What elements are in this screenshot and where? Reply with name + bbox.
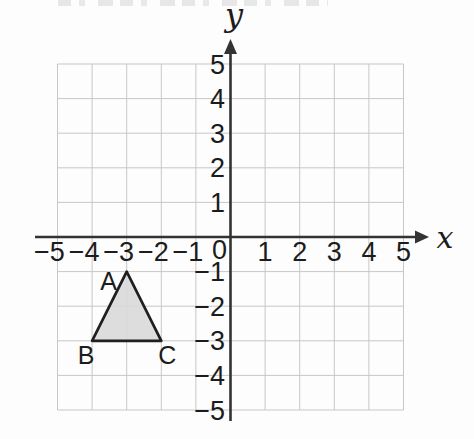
y-tick-label: 5 [210,50,225,80]
x-axis-label: x [437,220,454,255]
x-tick-label: 3 [327,237,342,267]
vertex-label-C: C [158,341,176,369]
x-tick-label: −3 [103,237,134,267]
figure: −5−4−3−2−112345−5−4−3−2−1123450yxABC [0,0,474,439]
x-tick-label: −4 [69,237,100,267]
vertex-label-B: B [78,341,95,369]
y-tick-label: 1 [210,188,225,218]
origin-label: 0 [212,235,227,265]
y-axis-arrowhead [224,39,237,54]
y-tick-label: −4 [194,361,225,391]
x-tick-label: 1 [258,237,273,267]
x-axis-arrowhead [415,231,429,244]
y-tick-label: 2 [210,153,225,183]
x-tick-label: 2 [292,237,307,267]
y-tick-label: −2 [194,292,225,322]
vertex-label-A: A [100,267,117,295]
x-tick-label: 4 [361,237,376,267]
y-tick-label: 3 [210,119,225,149]
y-tick-label: −5 [194,396,225,426]
x-tick-label: −2 [138,237,169,267]
y-tick-label: 4 [210,84,225,114]
coordinate-plane: −5−4−3−2−112345−5−4−3−2−1123450yxABC [0,0,474,439]
y-tick-label: −3 [194,326,225,356]
cropped-text-artifact [58,0,328,6]
x-tick-label: 5 [396,237,411,267]
x-tick-label: −5 [34,237,65,267]
